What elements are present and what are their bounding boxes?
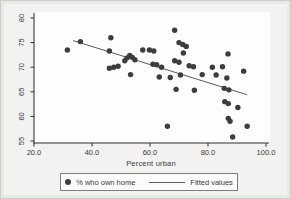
scatter-plot-canvas: 55606570758020.040.060.080.0100.0 xyxy=(1,1,291,199)
x-tick-label: 100.0 xyxy=(257,148,276,157)
y-tick-label: 65 xyxy=(17,88,26,96)
scatter-point xyxy=(224,75,229,80)
scatter-point xyxy=(172,28,177,33)
scatter-marker-icon xyxy=(65,179,71,185)
scatter-point xyxy=(184,44,189,49)
scatter-point xyxy=(210,65,215,70)
scatter-point xyxy=(226,101,231,106)
scatter-point xyxy=(235,105,240,110)
scatter-point xyxy=(244,124,249,129)
x-tick-label: 20.0 xyxy=(27,148,42,157)
legend-label-fitted: Fitted values xyxy=(190,178,233,187)
scatter-point xyxy=(157,74,162,79)
scatter-point xyxy=(151,48,156,53)
y-tick-label: 70 xyxy=(17,63,26,71)
scatter-point xyxy=(220,64,225,69)
scatter-point xyxy=(200,72,205,77)
y-tick-label: 60 xyxy=(17,112,26,120)
scatter-point xyxy=(108,35,113,40)
scatter-point xyxy=(132,57,137,62)
scatter-point xyxy=(213,72,218,77)
scatter-point xyxy=(241,68,246,73)
legend-label-own-home: % who own home xyxy=(76,178,135,187)
y-tick-label: 55 xyxy=(17,137,26,145)
legend-item-fitted: Fitted values xyxy=(149,178,233,187)
y-tick-label: 80 xyxy=(17,14,26,22)
scatter-point xyxy=(115,64,120,69)
scatter-point xyxy=(128,72,133,77)
scatter-point xyxy=(78,39,83,44)
y-tick-label: 75 xyxy=(17,38,26,46)
scatter-point xyxy=(230,134,235,139)
scatter-point xyxy=(227,119,232,124)
scatter-point xyxy=(225,51,230,56)
scatter-point xyxy=(140,47,145,52)
scatter-point xyxy=(222,86,227,91)
scatter-point xyxy=(173,87,178,92)
scatter-point xyxy=(191,64,196,69)
stata-scatter-figure: 55606570758020.040.060.080.0100.0 Percen… xyxy=(0,0,291,199)
x-axis-title: Percent urban xyxy=(34,159,268,168)
scatter-point xyxy=(192,88,197,93)
scatter-point xyxy=(181,50,186,55)
x-tick-label: 60.0 xyxy=(143,148,158,157)
scatter-point xyxy=(159,65,164,70)
scatter-point xyxy=(65,47,70,52)
x-tick-label: 80.0 xyxy=(201,148,216,157)
scatter-point xyxy=(226,87,231,92)
scatter-point xyxy=(154,62,159,67)
scatter-point xyxy=(168,75,173,80)
legend-item-own-home: % who own home xyxy=(65,178,135,187)
scatter-point xyxy=(165,124,170,129)
fitted-line-icon xyxy=(149,182,185,183)
scatter-point xyxy=(176,60,181,65)
scatter-point xyxy=(107,48,112,53)
plot-area xyxy=(34,12,270,144)
x-tick-label: 40.0 xyxy=(85,148,100,157)
legend-box: % who own home Fitted values xyxy=(60,173,238,191)
scatter-point xyxy=(178,72,183,77)
